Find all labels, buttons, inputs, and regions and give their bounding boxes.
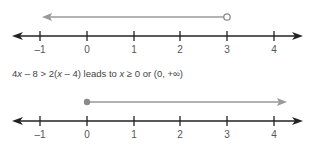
tick-label: 0	[84, 129, 90, 140]
tick-label: 4	[271, 44, 277, 55]
tick-label: 0	[84, 44, 90, 55]
inequality-caption: 4x – 8 > 2(x – 4) leads to x ≥ 0 or (0, …	[12, 68, 183, 79]
tick-label: 1	[131, 129, 137, 140]
tick-label: 4	[271, 129, 277, 140]
tick-label: 1	[131, 44, 137, 55]
tick-label: –1	[34, 44, 46, 55]
tick-label: 3	[224, 129, 230, 140]
caption-part: ≥ 0 or (0, +∞)	[124, 68, 183, 79]
tick-label: –1	[34, 129, 46, 140]
number-lines-figure: –1 0 1 2 3 4 –1 0 1 2 3 4	[0, 0, 317, 165]
closed-circle-icon	[84, 99, 90, 105]
caption-part: – 4) leads to	[62, 68, 120, 79]
open-circle-icon	[224, 14, 230, 20]
tick-label: 2	[177, 44, 183, 55]
tick-label: 3	[224, 44, 230, 55]
tick-label: 2	[177, 129, 183, 140]
caption-part: – 8 > 2(	[22, 68, 57, 79]
top-solution-ray	[42, 13, 230, 21]
top-number-line: –1 0 1 2 3 4	[12, 13, 303, 55]
bottom-solution-ray	[84, 98, 287, 106]
bottom-number-line: –1 0 1 2 3 4	[12, 98, 303, 140]
